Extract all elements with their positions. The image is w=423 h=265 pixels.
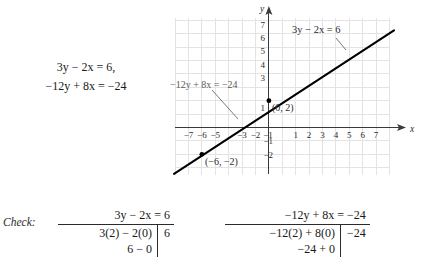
y-axis-label: y xyxy=(259,4,265,14)
svg-text:4: 4 xyxy=(261,60,266,70)
svg-text:−7: −7 xyxy=(184,130,194,140)
system-of-equations: 3y − 2x = 6, −12y + 8x = −24 xyxy=(0,58,172,96)
check-table-1-row-2-left: 6 − 0 xyxy=(58,241,158,257)
point-label-0-2: (0, 2) xyxy=(272,102,294,114)
svg-text:3: 3 xyxy=(320,130,325,140)
annotation-leader-1 xyxy=(336,38,346,50)
svg-text:1: 1 xyxy=(293,130,298,140)
check-table-2-row-2-right xyxy=(341,241,351,257)
check-table-1-row-1: 3(2) − 2(0) 6 xyxy=(58,225,174,241)
check-table-2-row-1: −12(2) + 8(0) −24 xyxy=(225,225,370,241)
svg-text:1: 1 xyxy=(261,103,266,113)
check-table-equation-2: −12y + 8x = −24 −12(2) + 8(0) −24 −24 + … xyxy=(225,208,370,257)
check-label: Check: xyxy=(3,216,36,228)
point-neg6-neg2 xyxy=(200,152,205,157)
svg-text:−1: −1 xyxy=(263,136,273,146)
svg-text:7: 7 xyxy=(374,130,379,140)
equation-line-2: −12y + 8x = −24 xyxy=(0,77,172,96)
point-label-neg6-neg2: (−6, −2) xyxy=(205,156,238,168)
svg-text:−2: −2 xyxy=(251,130,261,140)
svg-text:7: 7 xyxy=(261,20,266,30)
svg-text:−6: −6 xyxy=(197,130,207,140)
check-table-equation-1: 3y − 2x = 6 3(2) − 2(0) 6 6 − 0 xyxy=(58,208,174,257)
check-table-1-row-2: 6 − 0 xyxy=(58,241,174,257)
check-table-2-row-1-right: −24 xyxy=(341,225,370,241)
x-axis-label: x xyxy=(409,124,415,134)
point-0-2 xyxy=(267,98,272,103)
svg-text:6: 6 xyxy=(261,33,266,43)
check-table-2-row-1-left: −12(2) + 8(0) xyxy=(225,225,341,241)
svg-text:−5: −5 xyxy=(211,130,221,140)
annotation-label-line-1: 3y − 2x = 6 xyxy=(292,24,341,35)
svg-text:6: 6 xyxy=(360,130,365,140)
check-table-1-row-1-left: 3(2) − 2(0) xyxy=(58,225,158,241)
check-table-2-row-2-left: −24 + 0 xyxy=(225,241,341,257)
svg-text:3: 3 xyxy=(261,73,266,83)
check-table-2-header: −12y + 8x = −24 xyxy=(225,208,370,225)
annotation-label-line-2: −12y + 8x = −24 xyxy=(170,79,238,90)
annotation-leader-2 xyxy=(212,90,238,119)
svg-text:−2: −2 xyxy=(263,150,273,160)
check-table-2-row-2: −24 + 0 xyxy=(225,241,370,257)
check-table-1-row-1-right: 6 xyxy=(158,225,174,241)
x-tick-labels: −7 −6 −5 −3 −2 −1 1 2 3 4 5 6 7 xyxy=(184,130,379,140)
svg-text:2: 2 xyxy=(307,130,312,140)
equation-line-1: 3y − 2x = 6, xyxy=(0,58,172,77)
coordinate-graph: x y −7 −6 −5 −3 −2 −1 1 2 3 4 5 6 7 7 6 … xyxy=(170,2,423,184)
check-table-1-row-2-right xyxy=(158,241,168,257)
svg-text:5: 5 xyxy=(347,130,352,140)
check-table-1-header: 3y − 2x = 6 xyxy=(58,208,174,225)
svg-text:5: 5 xyxy=(261,46,266,56)
svg-text:4: 4 xyxy=(334,130,339,140)
